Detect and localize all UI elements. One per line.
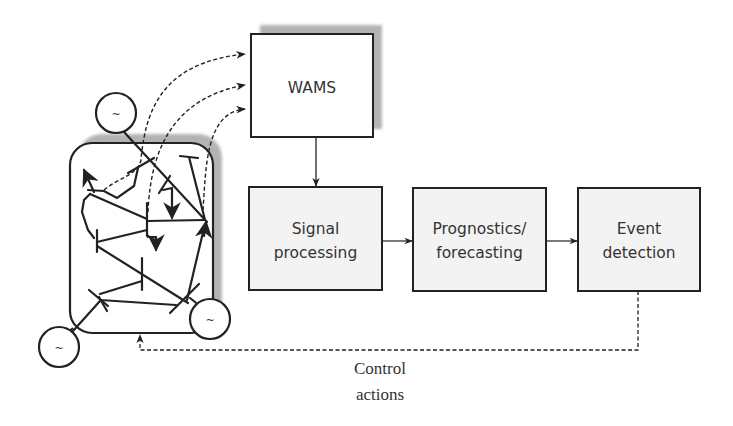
signal-processing-label-line1: Signal <box>292 220 340 238</box>
power-grid: ~ ~ ~ <box>39 93 230 367</box>
prognostics-label-line2: forecasting <box>436 244 523 262</box>
wams-node: WAMS <box>251 25 382 137</box>
prognostics-label-line1: Prognostics/ <box>432 220 527 238</box>
generator-bottom-right: ~ <box>190 299 230 339</box>
event-detection-box <box>578 188 700 291</box>
signal-processing-box <box>249 187 382 290</box>
wams-label: WAMS <box>288 79 336 97</box>
generator-bottom-left-symbol: ~ <box>54 342 63 355</box>
prognostics-box <box>413 188 546 291</box>
event-detection-node: Event detection <box>578 188 700 291</box>
wams-diagram: ~ ~ ~ WAMS Signal processing Prognostics <box>0 0 733 426</box>
generator-top: ~ <box>96 93 136 133</box>
generator-top-symbol: ~ <box>111 108 120 121</box>
control-actions-label-line2: actions <box>356 385 404 404</box>
event-detection-label-line2: detection <box>602 244 675 262</box>
prognostics-node: Prognostics/ forecasting <box>413 188 546 291</box>
generator-bottom-right-symbol: ~ <box>205 314 214 327</box>
control-actions-label-line1: Control <box>354 359 406 378</box>
generator-bottom-left: ~ <box>39 327 79 367</box>
event-detection-label-line1: Event <box>617 220 661 238</box>
signal-processing-node: Signal processing <box>249 187 382 290</box>
signal-processing-label-line2: processing <box>274 244 358 262</box>
